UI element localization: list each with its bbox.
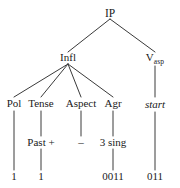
edge-ip-infl [68, 19, 110, 52]
node-vasp: Vasp [146, 52, 165, 66]
node-pol: Pol [7, 98, 22, 109]
edge-infl-tense [41, 64, 68, 97]
tree-edges [0, 0, 180, 188]
terminal-agr: 0011 [102, 171, 124, 182]
node-tense: Tense [28, 98, 54, 109]
edge-ip-vasp [110, 19, 155, 52]
node-vasp-subscript: asp [154, 57, 165, 66]
value-agr: 3 sing [100, 137, 127, 148]
value-aspect: – [78, 137, 84, 148]
terminal-pol: 1 [11, 171, 17, 182]
terminal-tense: 1 [38, 171, 44, 182]
value-tense: Past + [27, 137, 54, 148]
node-ip: IP [105, 8, 115, 20]
edge-infl-pol [14, 64, 68, 97]
value-vasp-start: start [145, 99, 165, 110]
node-vasp-base: V [146, 51, 154, 63]
syntax-tree-figure: IP Infl Vasp Pol Tense Aspect Agr Past +… [0, 0, 180, 188]
node-infl: Infl [60, 52, 76, 63]
terminal-vasp: 011 [147, 171, 163, 182]
node-aspect: Aspect [66, 98, 97, 109]
node-agr: Agr [104, 98, 121, 109]
